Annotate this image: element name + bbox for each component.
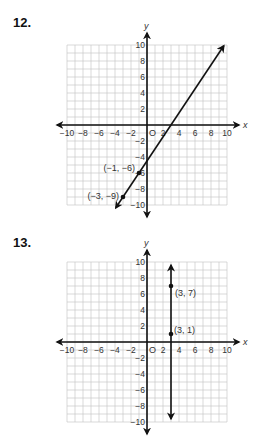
y-tick-label: 8 — [140, 273, 145, 283]
x-tick-label: −4 — [110, 128, 120, 138]
y-tick-label: −6 — [135, 385, 145, 395]
point-label: (−1, −6) — [103, 163, 135, 173]
graph-12: xyO−10−8−6−4−2246810108642−2−4−6−8−10(−1… — [0, 0, 276, 220]
y-tick-label: −4 — [135, 152, 145, 162]
y-tick-label: 8 — [140, 56, 145, 66]
x-tick-label: 10 — [222, 345, 232, 355]
plotted-line — [116, 46, 224, 208]
x-tick-label: −8 — [78, 128, 88, 138]
x-tick-label: 2 — [161, 345, 166, 355]
origin-label: O — [149, 128, 156, 138]
x-tick-label: −8 — [78, 345, 88, 355]
y-tick-label: −10 — [131, 417, 146, 427]
y-tick-label: −4 — [135, 369, 145, 379]
y-tick-label: −2 — [135, 353, 145, 363]
x-tick-label: −10 — [60, 128, 75, 138]
x-tick-label: −4 — [110, 345, 120, 355]
y-tick-label: 6 — [140, 72, 145, 82]
data-point — [169, 284, 174, 289]
y-tick-label: −8 — [135, 401, 145, 411]
y-tick-label: −10 — [131, 200, 146, 210]
point-label: (−3, −9) — [87, 191, 119, 201]
y-tick-label: 2 — [140, 321, 145, 331]
y-tick-label: 4 — [140, 305, 145, 315]
x-axis-label: x — [242, 337, 248, 347]
graph-13: xyO−10−8−6−4−2246810108642−2−4−6−8−10(3,… — [0, 220, 276, 446]
y-tick-label: −2 — [135, 136, 145, 146]
x-axis-label: x — [242, 120, 248, 130]
point-label: (3, 7) — [175, 288, 196, 298]
origin-label: O — [149, 345, 156, 355]
y-axis-label: y — [143, 21, 149, 31]
x-tick-label: 4 — [177, 128, 182, 138]
y-tick-label: 4 — [140, 88, 145, 98]
x-tick-label: −10 — [60, 345, 75, 355]
x-tick-label: 6 — [193, 345, 198, 355]
x-tick-label: 8 — [209, 345, 214, 355]
x-tick-label: −6 — [94, 128, 104, 138]
y-tick-label: 2 — [140, 104, 145, 114]
point-label: (3, 1) — [174, 325, 195, 335]
x-tick-label: 8 — [209, 128, 214, 138]
y-axis-label: y — [143, 238, 149, 248]
x-tick-label: 6 — [193, 128, 198, 138]
y-tick-label: −8 — [135, 184, 145, 194]
y-tick-label: 6 — [140, 289, 145, 299]
y-tick-label: 10 — [136, 40, 146, 50]
data-point — [169, 332, 174, 337]
data-point — [137, 171, 142, 176]
y-tick-label: 10 — [136, 257, 146, 267]
x-tick-label: 4 — [177, 345, 182, 355]
x-tick-label: 10 — [222, 128, 232, 138]
data-point — [121, 195, 126, 200]
x-tick-label: −6 — [94, 345, 104, 355]
